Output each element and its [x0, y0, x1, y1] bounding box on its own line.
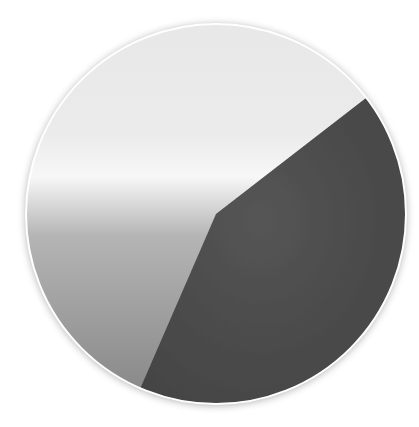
pie-chart: [0, 0, 419, 427]
pie-chart-svg: [0, 0, 419, 427]
